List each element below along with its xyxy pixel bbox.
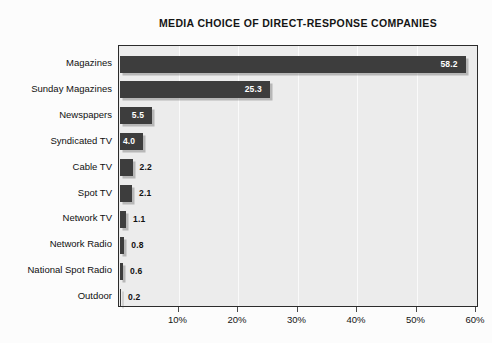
y-axis-tick-label: Network Radio <box>0 238 112 249</box>
x-axis-tick <box>356 307 357 312</box>
x-axis-tick <box>237 307 238 312</box>
bar-row[interactable]: 2.2 <box>120 159 477 176</box>
bar[interactable] <box>120 211 127 228</box>
x-axis-tick-label: 60% <box>455 314 492 325</box>
bar[interactable] <box>120 289 122 306</box>
bar-value-label: 0.2 <box>128 292 140 302</box>
y-axis-tick-label: Cable TV <box>0 161 112 172</box>
bar[interactable] <box>120 56 466 73</box>
x-axis-tick <box>297 307 298 312</box>
bar-value-label: 2.1 <box>139 188 151 198</box>
bar-value-label: 0.8 <box>131 240 143 250</box>
bar-row[interactable]: 2.1 <box>120 185 477 202</box>
x-axis-tick <box>178 307 179 312</box>
bar-row[interactable]: 25.3 <box>120 81 477 98</box>
bar-row[interactable]: 0.6 <box>120 263 477 280</box>
y-axis-category-labels: MagazinesSunday MagazinesNewspapersSyndi… <box>0 45 112 307</box>
y-axis-tick-label: Spot TV <box>0 187 112 198</box>
bar-series: 58.225.35.54.02.22.11.10.80.60.2 <box>120 47 477 306</box>
bar-row[interactable]: 5.5 <box>120 107 477 124</box>
bar-value-label: 25.3 <box>245 84 262 94</box>
x-axis-tick <box>475 307 476 312</box>
chart-title: MEDIA CHOICE OF DIRECT-RESPONSE COMPANIE… <box>118 17 478 29</box>
bar-value-label: 0.6 <box>130 266 142 276</box>
bar[interactable] <box>120 237 125 254</box>
x-axis: 10%20%30%40%50%60% <box>118 307 478 343</box>
bar[interactable] <box>120 185 132 202</box>
bar-value-label: 2.2 <box>140 162 152 172</box>
bar-value-label: 58.2 <box>440 59 457 69</box>
bar-value-label: 1.1 <box>133 214 145 224</box>
bar-row[interactable]: 4.0 <box>120 133 477 150</box>
y-axis-tick-label: Magazines <box>0 57 112 68</box>
bar-row[interactable]: 0.2 <box>120 289 477 306</box>
x-axis-tick <box>416 307 417 312</box>
bar-row[interactable]: 0.8 <box>120 237 477 254</box>
bar-row[interactable]: 58.2 <box>120 56 477 73</box>
y-axis-tick-label: Network TV <box>0 212 112 223</box>
bar-row[interactable]: 1.1 <box>120 211 477 228</box>
x-axis-tick-label: 50% <box>396 314 436 325</box>
x-axis-tick-label: 20% <box>217 314 257 325</box>
bar-value-label: 4.0 <box>123 136 135 146</box>
x-axis-tick-label: 10% <box>158 314 198 325</box>
y-axis-tick-label: Outdoor <box>0 290 112 301</box>
y-axis-tick-label: Syndicated TV <box>0 135 112 146</box>
chart-canvas: MEDIA CHOICE OF DIRECT-RESPONSE COMPANIE… <box>0 0 492 343</box>
bar[interactable] <box>120 263 124 280</box>
x-axis-tick-label: 30% <box>277 314 317 325</box>
y-axis-tick-label: National Spot Radio <box>0 264 112 275</box>
bar[interactable] <box>120 159 133 176</box>
y-axis-tick-label: Sunday Magazines <box>0 83 112 94</box>
x-axis-tick-label: 40% <box>336 314 376 325</box>
y-axis-tick-label: Newspapers <box>0 109 112 120</box>
bar-value-label: 5.5 <box>132 110 144 120</box>
